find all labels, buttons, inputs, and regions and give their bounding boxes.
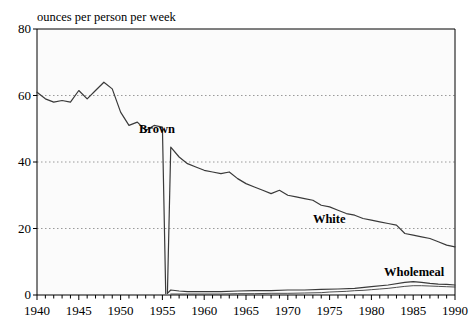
x-tick-label: 1950	[99, 303, 143, 319]
x-tick-label: 1945	[57, 303, 101, 319]
y-tick-label: 40	[5, 154, 31, 170]
x-tick-label: 1955	[140, 303, 184, 319]
x-tick-label: 1985	[391, 303, 435, 319]
x-tick-label: 1965	[224, 303, 268, 319]
x-tick-label: 1960	[182, 303, 226, 319]
bread-consumption-chart: ounces per person per week 020406080 194…	[0, 0, 470, 329]
x-tick-label: 1975	[308, 303, 352, 319]
x-tick-label: 1970	[266, 303, 310, 319]
y-tick-label: 0	[5, 287, 31, 303]
y-tick-label: 60	[5, 88, 31, 104]
x-tick-label: 1980	[349, 303, 393, 319]
y-tick-label: 80	[5, 21, 31, 37]
x-tick-label: 1990	[433, 303, 470, 319]
x-tick-label: 1940	[15, 303, 59, 319]
series-label-white: White	[313, 212, 346, 227]
series-label-wholemeal: Wholemeal	[384, 265, 444, 280]
y-tick-label: 20	[5, 221, 31, 237]
series-label-brown: Brown	[139, 122, 175, 137]
